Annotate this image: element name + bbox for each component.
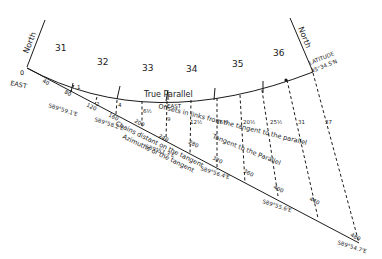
svg-text:400: 400 [273,184,286,194]
offset-value: 4 [118,102,122,108]
svg-text:320: 320 [212,155,225,165]
offset-value: 1 [77,84,81,90]
svg-text:360: 360 [243,168,256,178]
azimuth-value: S89°54.7'E [337,239,368,254]
section-36: 36 [273,48,285,58]
north-label-left: North [22,31,39,55]
azimuth-value: S89°59.1'E [48,102,79,117]
section-tick [214,88,215,100]
offset-line [313,73,359,243]
section-35: 35 [232,59,243,69]
tangent-point [284,78,287,81]
offset-value: 9 [167,116,171,122]
section-31: 31 [55,43,66,53]
svg-text:280: 280 [188,139,201,149]
offset-value: 6½ [143,108,152,114]
origin-label: 0 [20,69,24,77]
offset-value: 37 [325,119,332,125]
offset-value: 25½ [270,119,282,125]
tangent-offset-diagram: North North LATITUDE 45°34.5'N 0 EAST 31… [0,0,382,259]
offset-line [262,90,278,196]
svg-text:200: 200 [134,118,147,128]
section-32: 32 [97,57,108,67]
offset-value: 31 [298,119,305,125]
azimuth-value: S89°58.2'E [94,116,125,131]
east-label: EAST [10,79,28,90]
svg-text:480: 480 [350,232,363,242]
section-34: 34 [186,64,198,74]
section-tick [117,86,120,99]
offset-line [116,100,117,114]
azimuth-value: S89°55.6'E [262,198,293,213]
section-33: 33 [142,63,153,73]
offset-line [190,100,191,155]
